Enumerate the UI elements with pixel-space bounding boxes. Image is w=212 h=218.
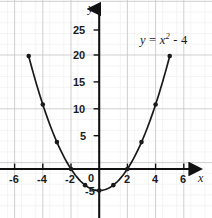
y-tick-label-10: 10	[73, 104, 85, 115]
data-point	[97, 188, 102, 193]
y-tick-label-neg5: -5	[85, 186, 95, 197]
data-point	[69, 167, 74, 172]
y-tick-label-15: 15	[73, 77, 85, 88]
data-point	[41, 102, 46, 107]
equation-constant: 4	[181, 33, 187, 47]
x-tick-label-2: 2	[124, 174, 130, 185]
x-tick-label-4: 4	[152, 174, 158, 185]
data-point	[125, 167, 130, 172]
y-axis-label: y	[88, 2, 93, 14]
data-point	[153, 102, 158, 107]
y-tick-label-25: 25	[73, 25, 85, 36]
equation-label: y = x2 - 4	[140, 32, 187, 47]
data-point	[55, 140, 60, 145]
x-tick-label-0: 0	[88, 173, 94, 184]
x-axis-label: x	[198, 172, 203, 184]
data-point	[26, 54, 31, 59]
x-tick-label-6: 6	[180, 174, 186, 185]
equation-operator: -	[170, 33, 181, 47]
x-tick-label-neg2: -2	[65, 174, 75, 185]
y-tick-label-5: 5	[80, 131, 86, 142]
x-tick-label-neg6: -6	[9, 174, 19, 185]
graph-figure: 25 20 15 10 5 -5 -6 -4 -2 0 2 4 6 x y y …	[0, 0, 212, 218]
data-point	[111, 183, 116, 188]
y-tick-label-20: 20	[73, 50, 85, 61]
data-point	[167, 54, 172, 59]
equation-equals: =	[146, 33, 160, 47]
data-point	[139, 140, 144, 145]
x-tick-label-neg4: -4	[37, 174, 47, 185]
